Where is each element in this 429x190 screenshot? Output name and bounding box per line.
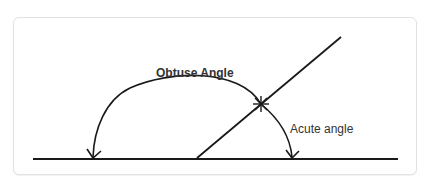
obtuse-arc — [93, 75, 261, 157]
acute-angle-label: Acute angle — [290, 122, 353, 136]
intersection-star-icon — [253, 96, 269, 112]
angle-diagram — [0, 0, 429, 190]
angle-ray — [197, 37, 341, 158]
acute-arrowhead-icon — [286, 150, 299, 158]
obtuse-angle-label: Obtuse Angle — [156, 66, 234, 80]
acute-arc — [261, 104, 292, 157]
